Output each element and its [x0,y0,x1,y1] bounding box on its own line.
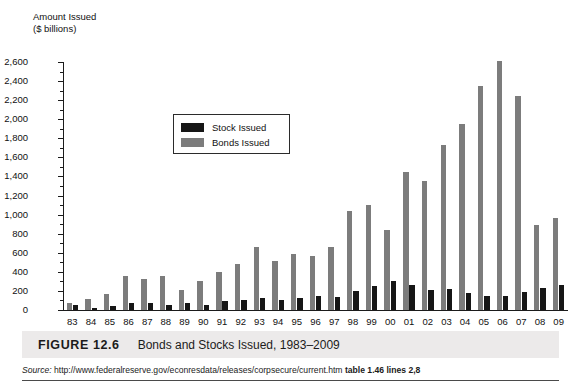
source-url[interactable]: http://www.federalreserve.gov/econresdat… [54,365,343,375]
bar-bonds-issued[interactable] [197,281,202,310]
bar-bonds-issued[interactable] [123,276,128,310]
bar-stock-issued[interactable] [335,297,340,310]
chart-legend: Stock Issued Bonds Issued [173,114,290,154]
bar-stock-issued[interactable] [559,285,564,310]
bar-stock-issued[interactable] [297,298,302,310]
bar-stock-issued[interactable] [260,298,265,310]
bar-stock-issued[interactable] [372,286,377,310]
bar-stock-issued[interactable] [409,285,414,310]
legend-label-stock: Stock Issued [212,122,266,133]
bar-bonds-issued[interactable] [235,264,240,310]
bar-group: 83 [63,62,82,310]
y-axis-tick-label: 0 [23,304,28,315]
bar-group: 94 [269,62,288,310]
bar-stock-issued[interactable] [148,303,153,310]
bar-stock-issued[interactable] [466,293,471,310]
figure-title: Bonds and Stocks Issued, 1983–2009 [138,338,340,352]
x-axis-tick-label: 01 [400,316,419,327]
bar-bonds-issued[interactable] [441,145,446,310]
bar-bonds-issued[interactable] [478,86,483,310]
figure-number: FIGURE 12.6 [38,338,120,352]
bar-stock-issued[interactable] [503,296,508,310]
bar-bonds-issued[interactable] [310,256,315,310]
bar-stock-issued[interactable] [241,300,246,310]
y-axis-tick-label: 400 [12,266,28,277]
bar-group: 95 [287,62,306,310]
bottom-rule [22,380,559,381]
bar-bonds-issued[interactable] [459,124,464,310]
bar-bonds-issued[interactable] [85,299,90,310]
bar-stock-issued[interactable] [447,289,452,310]
x-axis-tick-label: 91 [213,316,232,327]
bar-group: 87 [138,62,157,310]
bar-bonds-issued[interactable] [515,96,520,310]
x-axis-tick-label: 90 [194,316,213,327]
bar-bonds-issued[interactable] [534,225,539,310]
y-axis-tick-label: 2,400 [4,75,28,86]
bar-stock-issued[interactable] [522,292,527,310]
bar-bonds-issued[interactable] [272,261,277,310]
x-axis-line [63,310,568,311]
y-axis-tick-label: 600 [12,247,28,258]
legend-label-bonds: Bonds Issued [212,137,270,148]
bar-bonds-issued[interactable] [422,181,427,310]
bar-stock-issued[interactable] [316,296,321,310]
x-axis-tick-label: 96 [306,316,325,327]
bar-stock-issued[interactable] [428,290,433,310]
bar-group: 04 [456,62,475,310]
bar-stock-issued[interactable] [73,305,78,310]
bar-group: 08 [531,62,550,310]
bar-stock-issued[interactable] [166,305,171,310]
y-axis-tick-label: 2,200 [4,94,28,105]
bar-bonds-issued[interactable] [254,247,259,310]
bar-bonds-issued[interactable] [160,276,165,310]
x-axis-tick-label: 08 [531,316,550,327]
x-axis-tick-label: 92 [231,316,250,327]
figure-caption-band: FIGURE 12.6 Bonds and Stocks Issued, 198… [22,331,559,358]
bar-stock-issued[interactable] [391,281,396,310]
bar-group: 01 [400,62,419,310]
bar-bonds-issued[interactable] [403,172,408,310]
bar-stock-issued[interactable] [204,305,209,310]
bar-bonds-issued[interactable] [67,303,72,310]
bar-stock-issued[interactable] [129,303,134,310]
x-axis-tick-label: 93 [250,316,269,327]
bar-stock-issued[interactable] [92,308,97,310]
bar-group: 86 [119,62,138,310]
bar-stock-issued[interactable] [110,306,115,310]
y-axis-tick-label: 2,000 [4,113,28,124]
x-axis-tick-label: 86 [119,316,138,327]
bar-stock-issued[interactable] [540,288,545,310]
x-axis-tick-label: 95 [287,316,306,327]
bar-group: 84 [82,62,101,310]
bar-stock-issued[interactable] [484,296,489,310]
bar-bonds-issued[interactable] [366,205,371,310]
bar-stock-issued[interactable] [185,303,190,310]
bar-bonds-issued[interactable] [141,279,146,310]
legend-entry-bonds: Bonds Issued [181,135,289,150]
bar-bonds-issued[interactable] [291,254,296,310]
bar-stock-issued[interactable] [353,291,358,310]
y-axis-tick-label: 1,200 [4,190,28,201]
bar-group: 89 [175,62,194,310]
x-axis-tick-label: 09 [549,316,568,327]
y-axis-tick-labels: 02004006008001,0001,2001,4001,6001,8002,… [0,62,28,310]
bar-group: 00 [381,62,400,310]
bar-bonds-issued[interactable] [179,290,184,311]
bar-bonds-issued[interactable] [216,272,221,310]
x-axis-tick-label: 05 [474,316,493,327]
figure-container: Amount Issued ($ billions) 0200400600800… [0,0,581,392]
bar-bonds-issued[interactable] [384,230,389,310]
bar-stock-issued[interactable] [279,300,284,310]
bar-bonds-issued[interactable] [104,294,109,310]
bar-bonds-issued[interactable] [328,247,333,310]
bar-bonds-issued[interactable] [347,211,352,310]
bar-bonds-issued[interactable] [553,218,558,310]
bar-group: 99 [362,62,381,310]
bar-bonds-issued[interactable] [497,61,502,310]
x-axis-tick-label: 07 [512,316,531,327]
figure-source: Source: http://www.federalreserve.gov/ec… [22,365,420,375]
bar-group: 93 [250,62,269,310]
y-axis-tick-label: 800 [12,228,28,239]
bar-stock-issued[interactable] [222,301,227,310]
